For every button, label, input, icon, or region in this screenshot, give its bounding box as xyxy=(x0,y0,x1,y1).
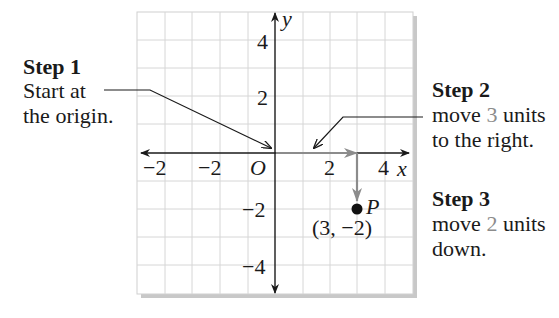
coordinate-plane-figure: y x O −2 −2 2 4 4 2 −2 −4 P (3, −2) Step… xyxy=(0,0,559,318)
step2-prefix: move xyxy=(432,102,486,127)
y-tick-label: 4 xyxy=(257,31,268,53)
point-p-coordinates: (3, −2) xyxy=(312,217,372,239)
step3-value: 2 xyxy=(486,211,497,236)
step1-title: Step 1 xyxy=(23,55,81,79)
step2-line1: move 3 units xyxy=(432,103,546,127)
y-tick-label: 2 xyxy=(257,87,268,109)
coord-close: ) xyxy=(365,215,372,240)
x-axis-label: x xyxy=(397,158,407,180)
y-tick-label: −4 xyxy=(242,256,265,278)
y-axis-label: y xyxy=(282,8,292,30)
step2-suffix: units xyxy=(497,102,545,127)
step2-value: 3 xyxy=(486,102,497,127)
step3-line1: move 2 units xyxy=(432,212,546,236)
step2-line2: to the right. xyxy=(432,128,534,152)
x-tick-label: −2 xyxy=(143,157,166,179)
step3-title: Step 3 xyxy=(432,187,490,211)
graph-canvas xyxy=(0,0,559,318)
step1-line2: the origin. xyxy=(23,104,113,128)
step1-line1: Start at xyxy=(23,79,86,103)
x-tick-label: 2 xyxy=(324,157,335,179)
step3-prefix: move xyxy=(432,211,486,236)
coord-open: (3, xyxy=(312,215,341,240)
origin-label: O xyxy=(250,157,266,179)
y-tick-label: −2 xyxy=(242,199,265,221)
step3-suffix: units xyxy=(497,211,545,236)
x-tick-label: 4 xyxy=(378,157,389,179)
step2-title: Step 2 xyxy=(432,78,490,102)
x-tick-label: −2 xyxy=(198,157,221,179)
step3-line2: down. xyxy=(432,237,486,261)
coord-neg: −2 xyxy=(341,215,364,240)
point-p-marker xyxy=(352,204,363,215)
